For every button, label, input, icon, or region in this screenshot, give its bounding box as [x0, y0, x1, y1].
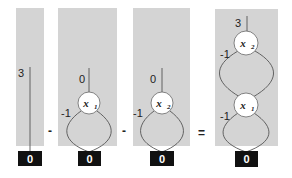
- panel-2-background: [58, 8, 117, 146]
- panel-4-terminal-label: 0: [243, 153, 249, 165]
- panel-2-terminal-label: 0: [86, 153, 92, 165]
- operator-minus-2: -: [122, 124, 126, 138]
- decision-diagram-equation: 3 0 - 0 x 1 -1 0 - 0 x 2 -1 0 = 3: [0, 0, 292, 178]
- panel-4: 3 x 2 -1 x 1 -1 0: [215, 9, 278, 167]
- panel-4-node-x2-sub: 2: [250, 43, 255, 51]
- panel-4-node-x2-var: x: [239, 37, 246, 49]
- panel-2-node-sub: 1: [94, 103, 98, 111]
- panel-1-terminal-label: 0: [27, 153, 33, 165]
- operator-minus-1: -: [48, 124, 52, 138]
- panel-4-node-x1-sub: 1: [251, 105, 255, 113]
- panel-2-node-var: x: [82, 97, 89, 109]
- panel-4-background: [215, 9, 278, 146]
- panel-3-terminal-label: 0: [159, 153, 165, 165]
- panel-1: 3 0: [16, 8, 44, 166]
- panel-3-node-sub: 2: [166, 103, 171, 111]
- panel-4-root-weight: 3: [235, 17, 241, 29]
- panel-3-node-var: x: [155, 97, 162, 109]
- operator-equals: =: [198, 126, 205, 140]
- panel-4-x1-edge-weight: -1: [220, 110, 230, 122]
- panel-3-edge-weight: -1: [133, 107, 143, 119]
- panel-4-node-x1-var: x: [239, 99, 246, 111]
- panel-3-root-weight: 0: [150, 73, 156, 85]
- panel-1-root-weight: 3: [18, 67, 24, 79]
- panel-3: 0 x 2 -1 0: [133, 8, 190, 166]
- panel-2: 0 x 1 -1 0: [58, 8, 117, 166]
- panel-2-edge-weight: -1: [61, 107, 71, 119]
- panel-4-x2-edge-weight: -1: [220, 48, 230, 60]
- panel-2-root-weight: 0: [79, 73, 85, 85]
